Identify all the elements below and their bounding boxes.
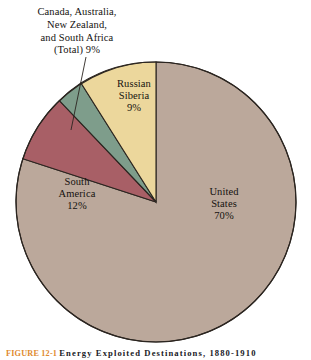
figure-caption: FIGURE 12-1 Energy Exploited Destination… (6, 349, 308, 359)
pie-chart (0, 0, 311, 360)
figure-container: Canada, Australia, New Zealand, and Sout… (0, 0, 311, 360)
figure-caption-tag: FIGURE 12-1 (6, 349, 57, 358)
figure-caption-text: Energy Exploited Destinations, 1880-1910 (59, 349, 256, 358)
